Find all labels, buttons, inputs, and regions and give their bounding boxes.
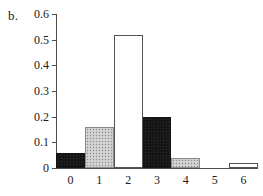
y-axis-tick-label: 0	[43, 162, 49, 174]
x-axis-tick-label: 6	[241, 174, 247, 186]
panel-label: b.	[8, 9, 18, 22]
x-axis-tick-label: 2	[125, 174, 131, 186]
figure-panel: b. 00.10.20.30.40.50.6 0123456	[0, 0, 263, 196]
y-axis-tick	[52, 91, 57, 92]
bar-6	[229, 163, 258, 168]
y-axis-tick-label: 0.3	[34, 85, 49, 97]
x-axis-tick-label: 3	[154, 174, 160, 186]
y-axis-tick	[52, 14, 57, 15]
bar-2	[114, 35, 143, 168]
bar-1	[85, 127, 114, 168]
x-axis-tick-label: 4	[183, 174, 189, 186]
y-axis-tick	[52, 65, 57, 66]
bar-3	[143, 117, 172, 168]
y-axis-tick	[52, 142, 57, 143]
y-axis-tick	[52, 168, 57, 169]
x-axis-tick-label: 1	[96, 174, 102, 186]
y-axis-tick	[52, 40, 57, 41]
plot-area: 00.10.20.30.40.50.6 0123456	[56, 14, 258, 168]
y-axis-tick-label: 0.5	[34, 34, 49, 46]
x-axis-line	[56, 168, 258, 169]
y-axis-tick	[52, 117, 57, 118]
bar-0	[56, 153, 85, 168]
x-axis-tick-label: 5	[212, 174, 218, 186]
bar-4	[171, 158, 200, 168]
y-axis-tick-label: 0.6	[34, 8, 49, 20]
y-axis-tick-label: 0.1	[34, 136, 49, 148]
y-axis-tick-label: 0.4	[34, 59, 49, 71]
y-axis-tick-label: 0.2	[34, 111, 49, 123]
x-axis-tick-label: 0	[67, 174, 73, 186]
